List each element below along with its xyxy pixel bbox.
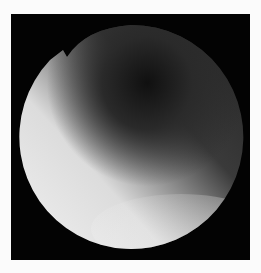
image-frame [11,14,250,260]
circular-scope-image [11,14,250,260]
